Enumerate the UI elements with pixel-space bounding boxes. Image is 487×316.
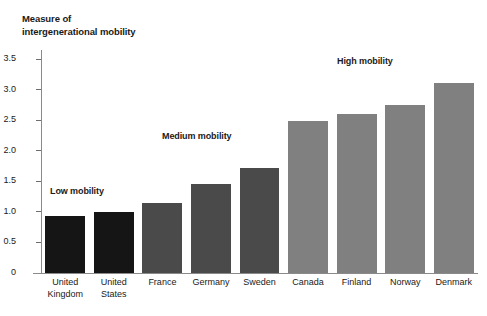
y-tick-label: 3.0 xyxy=(3,84,16,95)
chart-axis-title: Measure of intergenerational mobility xyxy=(22,13,136,38)
category-label: United Kingdom xyxy=(41,277,90,300)
y-tick-label: 0.5 xyxy=(3,236,16,247)
bar-rect xyxy=(142,203,182,273)
bar-rect xyxy=(45,216,85,273)
y-tick-label: 2.5 xyxy=(3,114,16,125)
annotation-label: Low mobility xyxy=(50,186,104,196)
bar xyxy=(94,212,134,273)
bar-chart: Measure of intergenerational mobility 00… xyxy=(0,0,487,316)
y-tick-label: 1.5 xyxy=(3,175,16,186)
bar-rect xyxy=(337,114,377,273)
y-tick-label: 0 xyxy=(11,267,16,278)
bar xyxy=(337,114,377,273)
category-label: Denmark xyxy=(429,277,478,289)
y-tick-label: 3.5 xyxy=(3,53,16,64)
bar xyxy=(385,105,425,273)
category-label: United States xyxy=(90,277,139,300)
category-label: Finland xyxy=(332,277,381,289)
bar xyxy=(434,83,474,273)
bar-rect xyxy=(434,83,474,273)
bar xyxy=(288,121,328,273)
annotation-label: High mobility xyxy=(337,56,393,66)
bar xyxy=(191,184,231,273)
x-axis-line xyxy=(33,273,478,274)
bar-rect xyxy=(385,105,425,273)
category-label: France xyxy=(138,277,187,289)
bars-layer xyxy=(41,50,478,273)
category-label: Norway xyxy=(381,277,430,289)
bar xyxy=(240,168,280,273)
y-tick-label: 2.0 xyxy=(3,145,16,156)
category-label: Germany xyxy=(187,277,236,289)
bar xyxy=(142,203,182,273)
bar-rect xyxy=(94,212,134,273)
bar xyxy=(45,216,85,273)
bar-rect xyxy=(240,168,280,273)
annotation-label: Medium mobility xyxy=(162,131,232,141)
y-tick-label: 1.0 xyxy=(3,206,16,217)
category-label: Canada xyxy=(284,277,333,289)
bar-rect xyxy=(288,121,328,273)
category-label: Sweden xyxy=(235,277,284,289)
bar-rect xyxy=(191,184,231,273)
